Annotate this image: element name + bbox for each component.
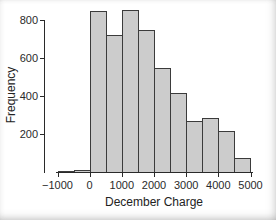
x-tick-label: 0 bbox=[87, 180, 93, 191]
x-axis-tick bbox=[90, 173, 91, 177]
x-axis-title: December Charge bbox=[57, 195, 251, 209]
histogram-bar bbox=[234, 158, 251, 173]
x-tick-label: 3000 bbox=[174, 180, 198, 191]
x-tick-label: 5000 bbox=[238, 180, 262, 191]
x-axis-tick bbox=[218, 173, 219, 177]
x-tick-label: −1000 bbox=[42, 180, 73, 191]
x-axis-tick bbox=[122, 173, 123, 177]
x-tick-label: 1000 bbox=[110, 180, 134, 191]
histogram-bar bbox=[218, 131, 235, 173]
y-tick-label: 200 bbox=[0, 129, 38, 140]
y-tick-label: 800 bbox=[0, 15, 38, 26]
histogram-bar bbox=[138, 30, 155, 174]
histogram-bar bbox=[154, 68, 171, 173]
y-axis-tick bbox=[40, 134, 44, 135]
histogram-bar bbox=[90, 11, 107, 173]
histogram-bar bbox=[202, 118, 219, 173]
histogram-bar bbox=[186, 121, 203, 173]
histogram-bar bbox=[170, 93, 187, 173]
y-tick-label: 400 bbox=[0, 91, 38, 102]
x-tick-label: 2000 bbox=[142, 180, 166, 191]
y-axis-tick bbox=[40, 20, 44, 21]
histogram-bar bbox=[106, 35, 123, 173]
x-axis-tick bbox=[186, 173, 187, 177]
x-axis-tick bbox=[154, 173, 155, 177]
y-axis-tick bbox=[40, 96, 44, 97]
y-axis-line bbox=[44, 20, 45, 173]
x-axis-tick bbox=[251, 173, 252, 177]
x-tick-label: 4000 bbox=[206, 180, 230, 191]
y-axis-tick bbox=[40, 58, 44, 59]
x-axis-tick bbox=[58, 173, 59, 177]
histogram-bar bbox=[122, 10, 139, 173]
y-tick-label: 600 bbox=[0, 53, 38, 64]
histogram-figure: Frequency 200400600800−10000100020003000… bbox=[0, 0, 276, 220]
plot-area: 200400600800−1000010002000300040005000 bbox=[0, 0, 276, 220]
